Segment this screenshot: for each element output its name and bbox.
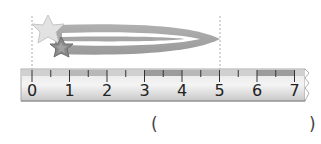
ruler-label-0: 0	[27, 81, 37, 100]
ruler-band	[145, 70, 164, 76]
ruler-band	[201, 70, 220, 76]
ruler-band	[70, 70, 89, 76]
answer-close-paren: )	[309, 114, 316, 134]
ruler-band	[107, 70, 126, 76]
ruler-label-3: 3	[139, 81, 149, 100]
hair-clip	[55, 24, 220, 54]
ruler-band	[220, 70, 239, 76]
answer-blank[interactable]	[165, 114, 305, 134]
ruler-label-7: 7	[289, 81, 299, 100]
ruler-band	[163, 70, 182, 76]
ruler-band	[276, 70, 295, 76]
ruler-band	[21, 70, 51, 76]
ruler-label-2: 2	[102, 81, 112, 100]
ruler-label-5: 5	[214, 81, 224, 100]
ruler-label-1: 1	[64, 81, 74, 100]
ruler-band	[257, 70, 276, 76]
ruler-band	[295, 70, 306, 76]
ruler-band	[88, 70, 107, 76]
ruler-band	[182, 70, 201, 76]
ruler-label-4: 4	[177, 81, 187, 100]
ruler-band	[238, 70, 257, 76]
ruler-label-6: 6	[252, 81, 262, 100]
ruler-band	[51, 70, 70, 76]
answer-open-paren: (	[151, 114, 158, 134]
ruler: 01234567	[21, 69, 309, 101]
ruler-band	[126, 70, 145, 76]
